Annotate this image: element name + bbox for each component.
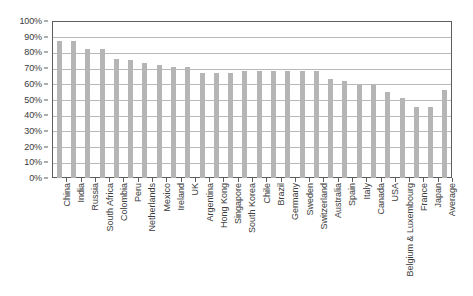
x-tick-label: France: [420, 183, 429, 211]
bar: [128, 60, 133, 178]
x-tick-label: Japan: [434, 183, 443, 208]
bar: [200, 73, 205, 178]
y-tick-mark: [44, 178, 48, 179]
y-tick-label: 30%: [24, 126, 42, 136]
bar: [242, 71, 247, 178]
bar: [371, 85, 376, 178]
bar: [100, 49, 105, 178]
bar: [114, 59, 119, 178]
x-tick-mark: [209, 178, 210, 182]
bar: [414, 107, 419, 178]
y-tick-mark: [44, 162, 48, 163]
bar: [300, 71, 305, 178]
x-tick-mark: [423, 178, 424, 182]
bar: [157, 65, 162, 178]
x-tick-mark: [295, 178, 296, 182]
x-tick-mark: [452, 178, 453, 182]
y-tick-label: 70%: [24, 63, 42, 73]
x-axis-ticks: [52, 178, 452, 182]
y-tick-mark: [44, 83, 48, 84]
x-tick-mark: [381, 178, 382, 182]
x-tick-mark: [166, 178, 167, 182]
x-tick-label: Germany: [291, 183, 300, 220]
y-tick-mark: [44, 68, 48, 69]
x-tick-label: Peru: [134, 183, 143, 202]
bar: [400, 98, 405, 178]
y-tick-label: 90%: [24, 32, 42, 42]
x-tick-label: USA: [391, 183, 400, 202]
y-tick-label: 50%: [24, 95, 42, 105]
x-tick-mark: [238, 178, 239, 182]
x-tick-label: Switzerland: [320, 183, 329, 230]
x-tick-mark: [195, 178, 196, 182]
x-tick-label: Mexico: [163, 183, 172, 212]
x-tick-mark: [95, 178, 96, 182]
y-tick-label: 100%: [19, 16, 42, 26]
y-tick-label: 60%: [24, 79, 42, 89]
y-tick-label: 0%: [29, 173, 42, 183]
x-tick-mark: [123, 178, 124, 182]
x-tick-mark: [81, 178, 82, 182]
bar: [228, 73, 233, 178]
bars-layer: [52, 21, 452, 178]
x-tick-mark: [266, 178, 267, 182]
x-tick-mark: [152, 178, 153, 182]
x-tick-mark: [395, 178, 396, 182]
x-tick-label: Colombia: [120, 183, 129, 221]
x-tick-mark: [181, 178, 182, 182]
x-tick-label: Hong Kong: [220, 183, 229, 228]
y-tick-mark: [44, 21, 48, 22]
x-tick-label: Average: [448, 183, 457, 216]
y-tick-label: 80%: [24, 47, 42, 57]
bar: [314, 71, 319, 178]
y-tick-label: 10%: [24, 157, 42, 167]
bar: [428, 107, 433, 178]
x-tick-label: Argentina: [206, 183, 215, 222]
x-tick-label: South Korea: [248, 183, 257, 233]
x-tick-mark: [223, 178, 224, 182]
y-tick-mark: [44, 130, 48, 131]
x-tick-mark: [409, 178, 410, 182]
bar: [285, 71, 290, 178]
x-axis-labels: ChinaIndiaRussiaSouth AfricaColombiaPeru…: [52, 183, 452, 293]
x-tick-label: UK: [191, 183, 200, 196]
x-tick-mark: [66, 178, 67, 182]
bar: [57, 41, 62, 178]
x-tick-label: Singapore: [234, 183, 243, 224]
x-tick-label: Belgium & Luxembourg: [406, 183, 415, 277]
y-tick-mark: [44, 115, 48, 116]
bar: [85, 49, 90, 178]
x-tick-label: Sweden: [306, 183, 315, 216]
x-tick-label: Spain: [348, 183, 357, 206]
bar: [257, 71, 262, 178]
y-tick-label: 40%: [24, 110, 42, 120]
y-tick-mark: [44, 36, 48, 37]
y-tick-mark: [44, 52, 48, 53]
x-tick-mark: [138, 178, 139, 182]
x-tick-mark: [309, 178, 310, 182]
y-tick-label: 20%: [24, 142, 42, 152]
x-tick-label: Brazil: [277, 183, 286, 206]
bar: [214, 73, 219, 178]
x-tick-label: Australia: [334, 183, 343, 218]
bar: [271, 71, 276, 178]
bar: [171, 67, 176, 178]
x-tick-mark: [252, 178, 253, 182]
bar: [342, 81, 347, 178]
bar: [328, 79, 333, 178]
x-tick-mark: [366, 178, 367, 182]
bar: [142, 63, 147, 178]
x-tick-mark: [352, 178, 353, 182]
bar: [185, 67, 190, 178]
x-tick-label: China: [63, 183, 72, 207]
y-tick-mark: [44, 146, 48, 147]
bar: [71, 41, 76, 178]
x-tick-label: Ireland: [177, 183, 186, 211]
x-tick-mark: [109, 178, 110, 182]
x-tick-mark: [281, 178, 282, 182]
y-tick-mark: [44, 99, 48, 100]
bar: [442, 90, 447, 178]
bar: [357, 85, 362, 178]
x-tick-label: Netherlands: [148, 183, 157, 232]
x-tick-label: India: [77, 183, 86, 203]
